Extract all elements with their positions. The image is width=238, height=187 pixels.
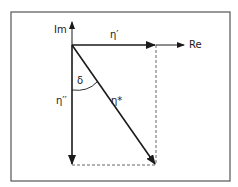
angle-label: δ xyxy=(77,75,83,86)
real-axis-label: Re xyxy=(189,39,202,50)
complex-viscosity-diagram: Im Re η′ η′′ η* δ xyxy=(0,0,238,187)
loss-vector-label: η′′ xyxy=(56,95,68,106)
angle-arc xyxy=(72,82,97,90)
storage-vector-label: η′ xyxy=(110,29,119,40)
imaginary-axis-label: Im xyxy=(54,24,67,35)
complex-vector-label: η* xyxy=(111,95,122,106)
